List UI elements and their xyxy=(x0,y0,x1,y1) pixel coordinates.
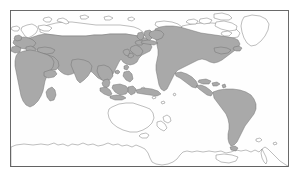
world-map-canvas xyxy=(0,0,298,177)
world-map-figure: World distribution map Pacific-centered … xyxy=(0,0,298,177)
iberia xyxy=(11,46,21,53)
lesser-antilles xyxy=(222,84,226,88)
